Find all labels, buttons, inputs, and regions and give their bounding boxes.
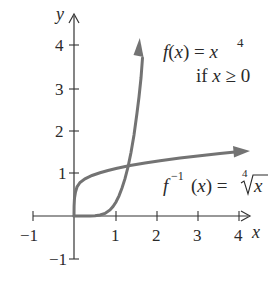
x-tick-label: 1 bbox=[111, 226, 120, 245]
svg-text:(x) =: (x) = bbox=[191, 175, 228, 197]
svg-text:f(x) = x: f(x) = x bbox=[163, 41, 219, 63]
curve-f-x4 bbox=[74, 58, 143, 216]
label-f-base: x bbox=[209, 41, 219, 62]
label-f-inverse: f −1 (x) = 4 x bbox=[163, 167, 268, 197]
label-finv-sup: −1 bbox=[171, 169, 184, 183]
x-axis bbox=[33, 211, 250, 221]
label-finv-radicand: x bbox=[253, 175, 263, 196]
label-f-rest: ) = bbox=[183, 41, 210, 63]
label-f-cond-rest: ≥ 0 bbox=[221, 65, 250, 86]
x-tick-label: 4 bbox=[234, 226, 243, 245]
label-f-exponent: 4 bbox=[237, 35, 244, 50]
label-finv-index: 4 bbox=[242, 167, 248, 179]
label-finv-f: f bbox=[163, 175, 171, 196]
curve-f-arrowhead-icon bbox=[134, 38, 144, 57]
label-f-if: if bbox=[196, 65, 212, 86]
curve-f-inverse-arrowhead-icon bbox=[233, 146, 250, 158]
y-tick-label: 2 bbox=[55, 122, 64, 141]
label-f: f(x) = x 4 if x ≥ 0 bbox=[163, 35, 250, 86]
function-inverse-graph: −1 1 2 3 4 x 4 3 2 1 −1 y f(x) = x 4 if … bbox=[0, 0, 278, 296]
label-finv-rest: ) = bbox=[206, 175, 228, 197]
x-tick-label: 3 bbox=[193, 226, 202, 245]
y-axis-label: y bbox=[54, 4, 64, 24]
y-tick-label: −1 bbox=[49, 250, 67, 269]
svg-text:if x ≥ 0: if x ≥ 0 bbox=[196, 65, 250, 86]
x-tick-label: −1 bbox=[20, 226, 38, 245]
x-axis-label: x bbox=[251, 222, 260, 242]
y-tick-label: 3 bbox=[55, 80, 64, 99]
x-tick-label: 2 bbox=[152, 226, 161, 245]
y-tick-label: 1 bbox=[58, 164, 67, 183]
y-tick-label: 4 bbox=[55, 36, 64, 55]
y-axis bbox=[69, 14, 79, 259]
